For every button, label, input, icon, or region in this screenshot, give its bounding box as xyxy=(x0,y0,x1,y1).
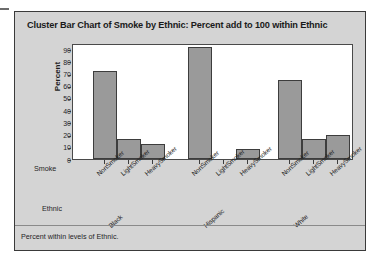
y-tick-mark xyxy=(68,99,71,100)
y-tick-mark xyxy=(68,62,71,63)
bar xyxy=(188,47,212,159)
y-tick-mark xyxy=(68,87,71,88)
y-tick-mark xyxy=(68,148,71,149)
y-tick-mark xyxy=(68,111,71,112)
group-label: White xyxy=(292,213,309,229)
y-tick-mark xyxy=(68,50,71,51)
chart-title: Cluster Bar Chart of Smoke by Ethnic: Pe… xyxy=(27,20,357,30)
footnote: Percent within levels of Ethnic. xyxy=(21,232,118,241)
footnote-divider xyxy=(15,225,365,226)
plot-area xyxy=(72,44,353,160)
bar xyxy=(93,71,117,159)
ethnic-axis-title: Ethnic xyxy=(42,204,62,213)
bar xyxy=(278,80,302,159)
y-tick-mark xyxy=(68,75,71,76)
smoke-axis-title: Smoke xyxy=(34,164,56,173)
bars-container xyxy=(73,45,352,159)
stray-mark xyxy=(0,8,9,10)
chart-panel: Cluster Bar Chart of Smoke by Ethnic: Pe… xyxy=(14,11,366,251)
y-tick-mark xyxy=(68,123,71,124)
y-tick-mark xyxy=(68,136,71,137)
y-tick-mark xyxy=(68,160,71,161)
group-label: Black xyxy=(107,213,123,229)
